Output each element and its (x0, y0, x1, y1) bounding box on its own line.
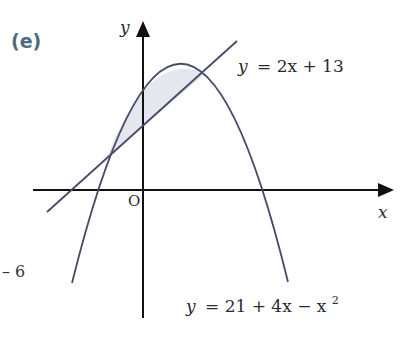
y-axis-arrow-icon (136, 21, 150, 37)
y-axis-label: y (119, 17, 130, 37)
x-axis-label: x (378, 202, 388, 222)
graph: y x O y = 2x + 13 y = 21 + 4x − x 2 (0, 0, 412, 349)
diagram-canvas: (e) – 6 y x O y = 2x + 13 y = 21 + 4x − … (0, 0, 412, 349)
origin-label: O (128, 192, 140, 210)
parabola-curve (72, 64, 288, 283)
x-axis-arrow-icon (378, 183, 394, 197)
parabola-equation-label: y = 21 + 4x − x 2 (185, 294, 339, 316)
line-equation-label: y = 2x + 13 (237, 56, 344, 76)
